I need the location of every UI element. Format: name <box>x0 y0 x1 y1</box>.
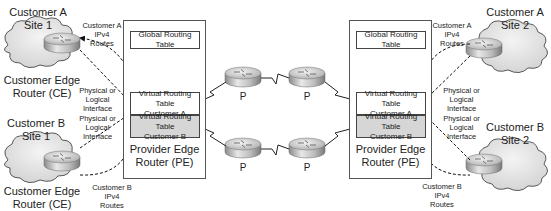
routes-label-a-right: Customer A IPv4 Routes <box>432 21 472 48</box>
left-vrf-customer-b: Virtual Routing Table Customer B <box>130 115 200 138</box>
p-router-2-label: P <box>297 91 317 102</box>
right-pe-label: Provider Edge Router (PE) <box>350 143 431 169</box>
right-vrf-customer-b: Virtual Routing Table Customer B <box>356 115 426 138</box>
site-label-customer-a-site2: Customer A Site 2 <box>480 6 550 32</box>
ce-label-customer-b-site1: Customer Edge Router (CE) <box>2 185 82 211</box>
left-global-routing-table: Global Routing Table <box>130 31 200 49</box>
right-pe-router-box: Global Routing Table Virtual Routing Tab… <box>349 20 432 179</box>
p-router-3-label: P <box>233 162 253 173</box>
routes-label-b-right: Customer B IPv4 Routes <box>422 182 462 209</box>
ce-router-b-site1-icon <box>44 151 80 171</box>
routes-label-b-left: Customer B IPv4 Routes <box>92 183 132 210</box>
p-router-4-label: P <box>297 162 317 173</box>
interface-label-a-right: Physical or Logical Interface <box>434 86 489 113</box>
ce-router-b-site2-icon <box>466 154 502 174</box>
interface-label-b-right: Physical or Logical Interface <box>434 114 489 141</box>
ce-router-a-site1-icon <box>44 33 80 53</box>
p-router-1-icon <box>225 67 261 87</box>
p-router-2-icon <box>289 67 325 87</box>
p-router-3-icon <box>225 138 261 158</box>
p-router-1-label: P <box>233 91 253 102</box>
site-label-customer-a-site1: Customer A Site 1 <box>8 6 68 32</box>
site-label-customer-b-site2: Customer B Site 2 <box>480 121 550 147</box>
p-router-4-icon <box>289 138 325 158</box>
site-label-customer-b-site1: Customer B Site 1 <box>6 117 66 143</box>
right-global-routing-table: Global Routing Table <box>356 31 426 49</box>
left-pe-label: Provider Edge Router (PE) <box>124 143 205 169</box>
interface-label-b-left: Physical or Logical Interface <box>70 114 125 141</box>
interface-label-a-left: Physical or Logical Interface <box>70 86 125 113</box>
left-pe-router-box: Global Routing Table Virtual Routing Tab… <box>123 20 206 179</box>
routes-label-a-left: Customer A IPv4 Routes <box>82 21 122 48</box>
